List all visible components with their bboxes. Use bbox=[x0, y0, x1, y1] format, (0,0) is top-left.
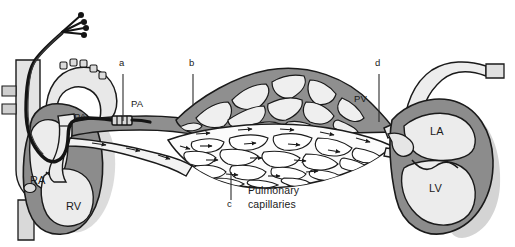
caption-pulmonary-capillaries-line2: capillaries bbox=[248, 198, 296, 210]
label-left-atrium: LA bbox=[430, 125, 444, 138]
label-marker-b: b bbox=[189, 58, 194, 69]
label-marker-c: c bbox=[227, 199, 232, 210]
descending-aorta-stub bbox=[486, 64, 504, 78]
label-right-ventricle: RV bbox=[66, 200, 81, 213]
label-left-ventricle: LV bbox=[429, 182, 442, 195]
caption-pulmonary-capillaries-line1: Pulmonary bbox=[248, 184, 299, 196]
left-heart-group bbox=[388, 62, 504, 238]
anatomical-figure: RA RV LA LV PA PA PV a b c d Pulmonary c… bbox=[0, 0, 515, 247]
venous-capillary-mesh bbox=[168, 124, 392, 188]
label-right-atrium: RA bbox=[30, 174, 45, 187]
catheter-balloon-sensor bbox=[112, 116, 132, 125]
vessel-branch-upper bbox=[2, 86, 16, 96]
label-marker-a: a bbox=[119, 58, 124, 69]
right-ventricle-chamber bbox=[41, 169, 93, 226]
label-pv: PV bbox=[354, 94, 367, 105]
label-pa-proximal: PA bbox=[74, 112, 86, 123]
catheter-connector-fan bbox=[62, 16, 84, 34]
vessel-branch-lower bbox=[2, 104, 16, 114]
label-marker-d: d bbox=[375, 58, 380, 69]
label-pa-distal: PA bbox=[131, 99, 143, 110]
